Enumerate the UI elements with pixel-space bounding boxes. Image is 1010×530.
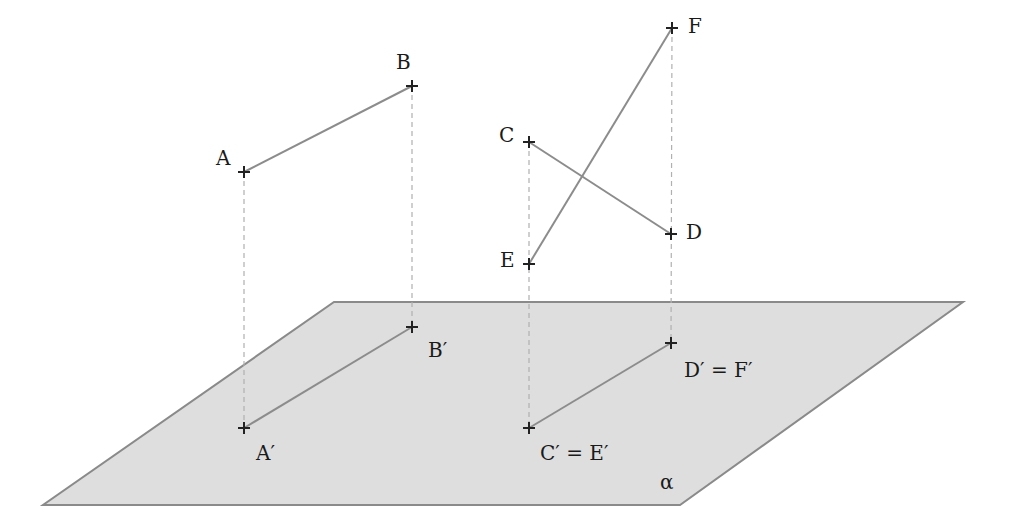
marker-d [665,228,677,240]
segment-ab [244,86,412,172]
marker-f [666,22,678,34]
label-e: E [500,250,515,270]
label-ce-proj: C′ = E′ [540,443,608,463]
projection-line-f [671,28,672,343]
label-a-proj: A′ [256,443,275,463]
plane-alpha [43,302,963,505]
marker-a [238,166,250,178]
label-c: C [499,125,514,145]
label-plane-alpha: α [660,472,674,492]
marker-c [523,136,535,148]
segment-cd [529,142,671,234]
label-f: F [688,16,702,36]
marker-b [406,80,418,92]
label-d: D [686,222,702,242]
label-b-proj: B′ [428,340,447,360]
marker-e [523,258,535,270]
segment-ef [529,28,672,264]
label-a: A [216,148,230,168]
label-df-proj: D′ = F′ [684,360,752,380]
label-b: B [396,52,411,72]
